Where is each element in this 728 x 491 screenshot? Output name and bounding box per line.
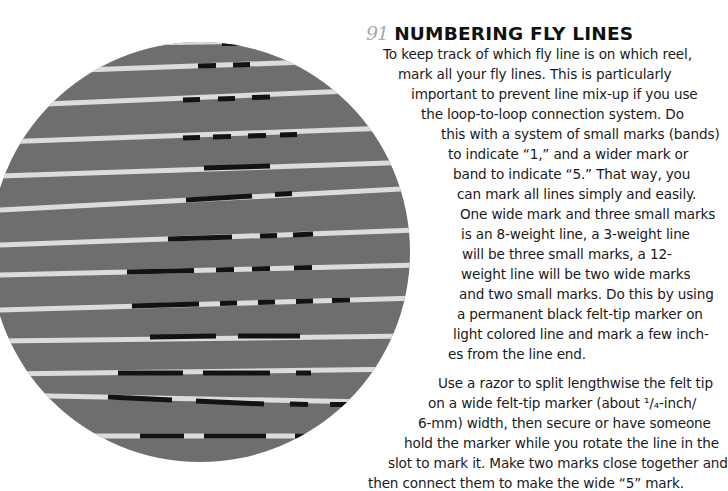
text-line: band to indicate “5.” That way, you [453,164,690,184]
text-line: then connect them to make the wide “5” m… [368,473,684,491]
text-line: will be three small marks, a 12- [462,244,672,264]
text-line: and two small marks. Do this by using [459,284,714,304]
text-line: important to prevent line mix-up if you … [411,84,698,104]
article-title: NUMBERING FLY LINES [394,23,633,44]
text-line: can mark all lines simply and easily. [457,184,696,204]
article-heading: 91 NUMBERING FLY LINES [366,22,633,44]
text-line: es from the line end. [448,344,586,364]
text-line: hold the marker while you rotate the lin… [404,433,719,453]
text-line: on a wide felt-tip marker (about ¹/₄-inc… [428,393,696,413]
text-line: is an 8-weight line, a 3-weight line [461,224,690,244]
text-line: One wide mark and three small marks [460,204,715,224]
text-line: To keep track of which fly line is on wh… [383,44,692,64]
text-line: 6-mm) width, then secure or have someone [418,413,711,433]
text-line: a permanent black felt-tip marker on [457,304,703,324]
text-line: Use a razor to split lengthwise the felt… [438,373,713,393]
text-line: slot to mark it. Make two marks close to… [388,453,728,473]
text-line: the loop-to-loop connection system. Do [421,104,684,124]
text-line: mark all your fly lines. This is particu… [398,64,671,84]
text-line: this with a system of small marks (bands… [441,124,720,144]
text-line: light colored line and mark a few inch- [453,324,709,344]
text-line: to indicate “1,” and a wider mark or [448,144,688,164]
article-number: 91 [366,22,388,44]
text-line: weight line will be two wide marks [461,264,690,284]
